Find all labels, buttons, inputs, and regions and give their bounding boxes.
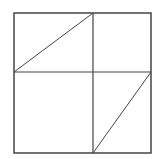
outer-square [14,13,151,153]
diagonal-top-left [14,13,93,72]
diagonal-bottom-right [93,72,151,153]
geometry-diagram [0,0,162,159]
